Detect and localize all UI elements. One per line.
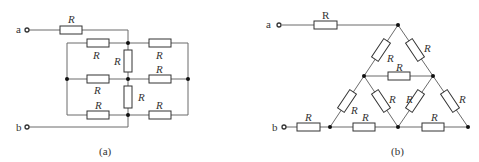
- resistor: [149, 75, 171, 83]
- terminal-b: [25, 125, 29, 129]
- terminal-b: [282, 125, 286, 129]
- resistor-label: R: [458, 93, 466, 105]
- resistor: [87, 75, 109, 83]
- resistor: [388, 72, 410, 80]
- resistor-label: R: [304, 111, 312, 123]
- resistor: [422, 123, 444, 131]
- terminal-a: [277, 23, 281, 27]
- circuit-figure: a b R R R R R R R R R (a): [0, 0, 479, 162]
- resistor-label: R: [137, 91, 145, 103]
- resistor-label: R: [350, 104, 358, 116]
- resistor-label: R: [423, 42, 431, 54]
- circuit-b: a b R R R R R R R R R R R (b): [266, 9, 470, 158]
- resistor: [441, 90, 460, 113]
- resistor-label: R: [322, 9, 330, 21]
- resistor-label: R: [386, 52, 394, 64]
- resistor-label: R: [93, 84, 101, 96]
- resistor-label: R: [155, 99, 163, 111]
- terminal-a: [25, 28, 29, 32]
- terminal-b-label: b: [272, 121, 278, 133]
- resistor-label: R: [361, 111, 369, 123]
- circuit-a: a b R R R R R R R R R (a): [16, 13, 190, 158]
- resistor-label: R: [67, 13, 75, 25]
- resistor: [372, 90, 391, 113]
- resistor-label: R: [405, 93, 413, 105]
- terminal-b-label: b: [16, 121, 22, 133]
- resistor: [87, 39, 109, 47]
- resistor-label: R: [155, 63, 163, 75]
- resistor: [124, 50, 132, 72]
- resistor-label: R: [388, 93, 396, 105]
- caption-a: (a): [99, 145, 112, 158]
- resistor: [314, 21, 337, 29]
- resistor-label: R: [395, 61, 403, 73]
- resistor: [149, 111, 171, 119]
- resistor: [149, 39, 171, 47]
- terminal-a-label: a: [16, 23, 21, 35]
- resistor: [406, 39, 425, 62]
- resistor: [353, 123, 375, 131]
- resistor: [297, 123, 320, 131]
- resistor: [124, 86, 132, 108]
- resistor-label: R: [113, 55, 121, 67]
- terminal-a-label: a: [266, 18, 271, 30]
- resistor: [60, 26, 82, 34]
- resistor-label: R: [155, 49, 163, 61]
- resistor-label: R: [94, 99, 102, 111]
- resistor-label: R: [92, 49, 100, 61]
- caption-b: (b): [391, 145, 404, 158]
- resistor: [87, 111, 109, 119]
- resistor-label: R: [430, 111, 438, 123]
